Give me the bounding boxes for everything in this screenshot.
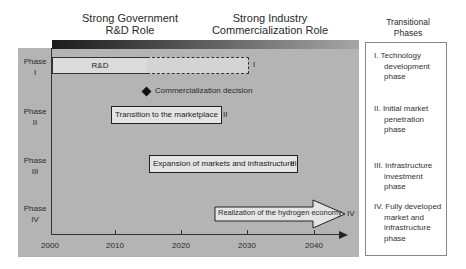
phase-label-4: Phase IV xyxy=(19,203,51,225)
phase-line: market and xyxy=(374,213,446,224)
transition-marketplace-box: Transition to the marketplace xyxy=(111,106,222,124)
phase-number: II xyxy=(19,117,51,128)
phase-4-roman: IV xyxy=(347,209,355,218)
phase-number: IV xyxy=(19,214,51,225)
tick-label-2030: 2030 xyxy=(232,241,262,250)
tick-2040 xyxy=(314,230,315,234)
commercialization-decision-label: Commercialization decision xyxy=(155,86,252,95)
phase-label-1: Phase I xyxy=(19,56,51,78)
header-line: Transitional xyxy=(370,17,446,28)
phase-line: penetration xyxy=(374,115,446,126)
axis-arrowhead-icon xyxy=(339,231,348,239)
rd-bar-extension xyxy=(147,57,249,74)
header-line: Phases xyxy=(370,28,446,39)
phase-line: phase xyxy=(374,234,446,245)
phase-title: III. Infrastructure xyxy=(374,161,432,170)
tick-label-2020: 2020 xyxy=(166,241,196,250)
hydrogen-economy-label: Realization of the hydrogen economy xyxy=(218,208,342,217)
tick-label-2000: 2000 xyxy=(35,241,65,250)
phase-line: phase xyxy=(374,72,446,83)
phase-2-roman: II xyxy=(223,110,227,119)
transitional-phase-4: IV. Fully developed market and infrastru… xyxy=(374,202,446,244)
industry-role-header: Strong Industry Commercialization Role xyxy=(190,12,350,36)
phase-number: III xyxy=(19,166,51,177)
transitional-phase-1: I. Technology development phase xyxy=(374,51,446,83)
tick-2010 xyxy=(115,230,116,234)
phase-line: investment xyxy=(374,172,446,183)
phase-number: I xyxy=(19,67,51,78)
phase-1-roman: I xyxy=(253,60,255,69)
phase-line: phase xyxy=(374,182,446,193)
header-line: Strong Government xyxy=(50,12,210,24)
y-axis-line xyxy=(51,48,52,235)
role-gradient-bar xyxy=(52,40,359,49)
tick-label-2010: 2010 xyxy=(100,241,130,250)
phase-word: Phase xyxy=(19,203,51,214)
header-line: Strong Industry xyxy=(190,12,350,24)
tick-2030 xyxy=(247,230,248,234)
phase-line: infrastructure xyxy=(374,223,446,234)
phase-line: phase xyxy=(374,125,446,136)
phase-label-3: Phase III xyxy=(19,155,51,177)
tick-label-2040: 2040 xyxy=(299,241,329,250)
phase-label-2: Phase II xyxy=(19,106,51,128)
rd-bar: R&D xyxy=(52,57,148,74)
phase-3-roman: III xyxy=(290,159,297,168)
phase-title: II. Initial market xyxy=(374,104,428,113)
transitional-phase-3: III. Infrastructure investment phase xyxy=(374,161,446,193)
transitional-phases-box: I. Technology development phase II. Init… xyxy=(365,42,447,256)
transitional-phase-2: II. Initial market penetration phase xyxy=(374,104,446,136)
header-line: R&D Role xyxy=(50,24,210,36)
phase-line: development xyxy=(374,62,446,73)
header-line: Commercialization Role xyxy=(190,24,350,36)
phase-title: IV. Fully developed xyxy=(374,202,441,211)
expansion-markets-box: Expansion of markets and infrastructure xyxy=(149,155,298,173)
phase-title: I. Technology xyxy=(374,51,421,60)
phase-word: Phase xyxy=(19,106,51,117)
phase-word: Phase xyxy=(19,56,51,67)
x-axis-line xyxy=(51,234,341,235)
government-role-header: Strong Government R&D Role xyxy=(50,12,210,36)
phase-word: Phase xyxy=(19,155,51,166)
tick-2020 xyxy=(181,230,182,234)
transitional-phases-header: Transitional Phases xyxy=(370,17,446,39)
